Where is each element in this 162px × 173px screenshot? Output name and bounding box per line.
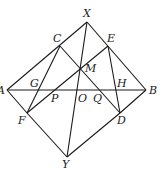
point-label-c: C	[53, 32, 62, 45]
segment-ax	[7, 22, 87, 90]
segment-fy	[27, 113, 67, 157]
point-label-p: P	[50, 92, 59, 105]
point-label-b: B	[148, 84, 157, 97]
point-label-y: Y	[62, 158, 71, 171]
point-label-q: Q	[93, 92, 102, 105]
point-label-h: H	[116, 77, 127, 90]
point-label-e: E	[106, 32, 115, 45]
point-label-m: M	[84, 62, 97, 75]
diagram-labels: XCEMABGPOQHFDY	[0, 7, 157, 171]
point-label-a: A	[0, 84, 5, 97]
segment-db	[120, 90, 146, 113]
geometry-diagram: XCEMABGPOQHFDY	[0, 0, 162, 173]
point-label-f: F	[17, 114, 26, 127]
segment-cd	[60, 46, 120, 113]
point-label-x: X	[82, 7, 92, 20]
segment-yd	[67, 113, 120, 157]
point-label-d: D	[116, 114, 126, 127]
point-label-o: O	[78, 92, 87, 105]
segment-af	[7, 90, 27, 113]
point-label-g: G	[30, 77, 39, 90]
